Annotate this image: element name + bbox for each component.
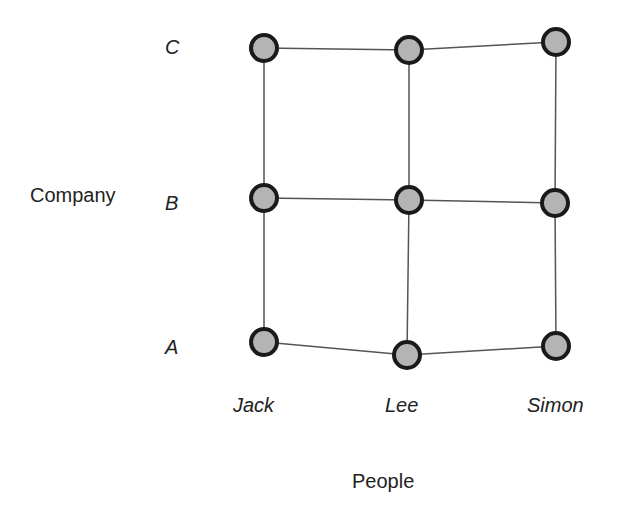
col-label-simon: Simon: [527, 394, 584, 417]
node-c-simon: [543, 29, 569, 55]
col-label-jack: Jack: [233, 394, 274, 417]
row-label-b: B: [165, 192, 178, 215]
node-b-lee: [396, 187, 422, 213]
node-b-simon: [542, 190, 568, 216]
edge-vertical: [555, 42, 556, 203]
y-axis-title: Company: [30, 184, 116, 207]
node-c-jack: [251, 35, 277, 61]
edge-horizontal: [407, 346, 556, 355]
edge-horizontal: [264, 342, 407, 355]
edge-vertical: [407, 200, 409, 355]
row-label-c: C: [165, 36, 179, 59]
node-a-jack: [251, 329, 277, 355]
edge-horizontal: [264, 198, 409, 200]
row-label-a: A: [165, 336, 178, 359]
x-axis-title: People: [352, 470, 414, 493]
edge-horizontal: [409, 200, 555, 203]
edge-horizontal: [264, 48, 409, 50]
col-label-lee: Lee: [385, 394, 418, 417]
node-a-lee: [394, 342, 420, 368]
node-c-lee: [396, 37, 422, 63]
edge-vertical: [555, 203, 556, 346]
node-b-jack: [251, 185, 277, 211]
grid-diagram: [0, 0, 627, 524]
node-a-simon: [543, 333, 569, 359]
edge-horizontal: [409, 42, 556, 50]
